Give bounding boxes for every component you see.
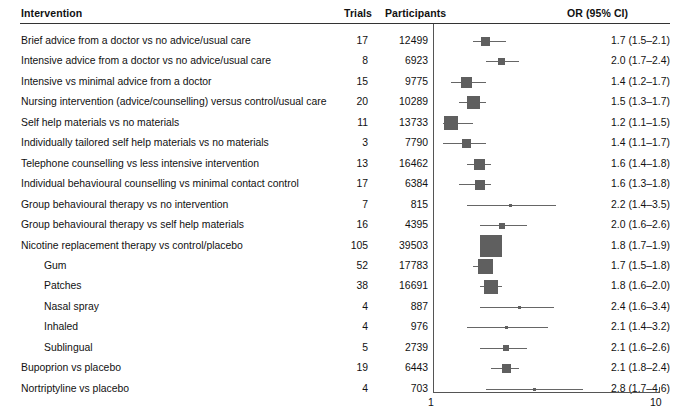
- table-row: Nortriptyline vs placebo47032.8 (1.7–4.6…: [0, 379, 679, 399]
- table-row: Self help materials vs no materials11137…: [0, 113, 679, 133]
- row-forest-marker-group: [0, 256, 679, 276]
- table-row: Group behavioural therapy vs no interven…: [0, 195, 679, 215]
- table-row: Brief advice from a doctor vs no advice/…: [0, 31, 679, 51]
- effect-estimate-box: [518, 306, 521, 309]
- table-row: Gum52177831.7 (1.5–1.8): [0, 256, 679, 276]
- effect-estimate-box: [444, 116, 458, 130]
- table-row: Sublingual527392.1 (1.6–2.6): [0, 338, 679, 358]
- row-forest-marker-group: [0, 51, 679, 71]
- x-axis-tick-min: [433, 387, 434, 393]
- row-forest-marker-group: [0, 297, 679, 317]
- row-forest-marker-group: [0, 154, 679, 174]
- table-row: Nasal spray48872.4 (1.6–3.4): [0, 297, 679, 317]
- x-axis-label-max: 10: [650, 396, 662, 408]
- table-row: Inhaled49762.1 (1.4–3.2): [0, 317, 679, 337]
- x-axis-label-min: 1: [428, 396, 434, 408]
- effect-estimate-box: [481, 37, 490, 46]
- table-row: Bupoprion vs placebo1964432.1 (1.8–2.4): [0, 358, 679, 378]
- effect-estimate-box: [499, 223, 505, 229]
- row-forest-marker-group: [0, 215, 679, 235]
- effect-estimate-box: [480, 235, 502, 257]
- table-row: Nursing intervention (advice/counselling…: [0, 92, 679, 112]
- x-axis-tick-max: [659, 387, 660, 393]
- row-forest-marker-group: [0, 113, 679, 133]
- table-row: Intensive vs minimal advice from a docto…: [0, 72, 679, 92]
- confidence-interval-line: [480, 307, 554, 308]
- row-forest-marker-group: [0, 174, 679, 194]
- row-forest-marker-group: [0, 276, 679, 296]
- effect-estimate-box: [502, 364, 511, 373]
- table-row: Individual behavioural counselling vs mi…: [0, 174, 679, 194]
- column-header-trials: Trials: [344, 7, 372, 19]
- effect-estimate-box: [503, 345, 509, 351]
- row-forest-marker-group: [0, 358, 679, 378]
- row-forest-marker-group: [0, 31, 679, 51]
- effect-estimate-box: [474, 159, 485, 170]
- effect-estimate-box: [462, 139, 471, 148]
- table-row: Group behavioural therapy vs self help m…: [0, 215, 679, 235]
- row-forest-marker-group: [0, 72, 679, 92]
- row-forest-marker-group: [0, 317, 679, 337]
- header-rule: [20, 23, 670, 24]
- column-header-participants: Participants: [385, 7, 446, 19]
- effect-estimate-box: [484, 280, 498, 294]
- table-row: Individually tailored self help material…: [0, 133, 679, 153]
- row-forest-marker-group: [0, 133, 679, 153]
- row-forest-marker-group: [0, 92, 679, 112]
- row-forest-marker-group: [0, 195, 679, 215]
- table-row: Patches38166911.8 (1.6–2.0): [0, 276, 679, 296]
- row-forest-marker-group: [0, 338, 679, 358]
- effect-estimate-box: [505, 326, 508, 329]
- effect-estimate-box: [533, 388, 536, 391]
- forest-plot-figure: Intervention Trials Participants OR (95%…: [0, 0, 679, 418]
- x-axis-line: [433, 392, 660, 393]
- effect-estimate-box: [498, 58, 505, 65]
- table-row: Intensive advice from a doctor vs no adv…: [0, 51, 679, 71]
- effect-estimate-box: [478, 259, 493, 274]
- effect-estimate-box: [467, 96, 480, 109]
- table-row: Telephone counselling vs less intensive …: [0, 154, 679, 174]
- column-header-or-ci: OR (95% CI): [567, 7, 628, 19]
- row-forest-marker-group: [0, 379, 679, 399]
- effect-estimate-box: [509, 204, 512, 207]
- column-header-intervention: Intervention: [21, 7, 82, 19]
- effect-estimate-box: [475, 180, 485, 190]
- table-row: Nicotine replacement therapy vs control/…: [0, 236, 679, 256]
- effect-estimate-box: [461, 77, 472, 88]
- row-forest-marker-group: [0, 236, 679, 256]
